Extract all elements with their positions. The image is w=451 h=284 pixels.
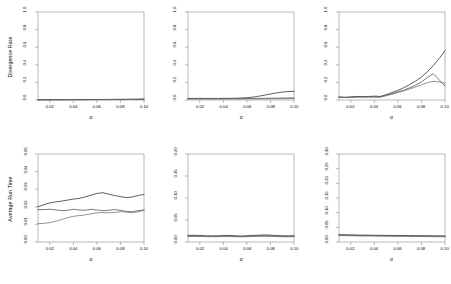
y-tick-label: 0.05	[166, 215, 184, 220]
y-tick-label: 0.6	[16, 42, 34, 47]
panel-top-right-svg	[301, 0, 451, 142]
x-tick-label: 0.08	[411, 104, 431, 109]
panel-top-middle: 0.020.040.060.080.100.00.20.40.60.81.0σ	[150, 0, 300, 142]
x-tick-label: 0.08	[261, 104, 281, 109]
x-tick-label: 0.10	[435, 104, 451, 109]
x-tick-label: 0.04	[214, 246, 234, 251]
y-tick-label: 0.0	[16, 95, 34, 100]
y-tick-label: 0.10	[166, 193, 184, 198]
y-tick-label: 0.2	[16, 77, 34, 82]
x-tick-label: 0.02	[190, 246, 210, 251]
panel-top-right-plot: 0.020.040.060.080.100.00.20.40.60.81.0σ	[301, 0, 451, 142]
y-tick-label: 0.00	[317, 237, 335, 242]
panel-bottom-left: Average Run Time 0.020.040.060.080.100.0…	[0, 142, 150, 284]
y-tick-label: 0.15	[166, 171, 184, 176]
panel-bottom-middle: 0.020.040.060.080.100.000.050.100.150.20…	[150, 142, 300, 284]
y-tick-label: 0.8	[317, 25, 335, 30]
y-tick-label: 0.15	[317, 193, 335, 198]
x-tick-label: 0.06	[87, 246, 107, 251]
x-tick-label: 0.02	[40, 246, 60, 251]
y-tick-label: 0.04	[16, 167, 34, 172]
x-tick-label: 0.08	[261, 246, 281, 251]
x-tick-label: 0.06	[87, 104, 107, 109]
plot-frame	[38, 154, 144, 242]
x-tick-label: 0.06	[237, 246, 257, 251]
panel-bottom-right-xlabel: σ	[377, 256, 407, 262]
y-tick-label: 0.05	[317, 222, 335, 227]
x-tick-label: 0.08	[110, 104, 130, 109]
series-line	[38, 193, 144, 207]
plot-frame	[339, 12, 445, 100]
y-tick-label: 0.0	[166, 95, 184, 100]
y-tick-label: 1.0	[317, 7, 335, 12]
panel-bottom-right-plot: 0.020.040.060.080.100.000.050.100.150.20…	[301, 142, 451, 284]
x-tick-label: 0.04	[364, 104, 384, 109]
panel-top-left-svg	[0, 0, 150, 142]
y-tick-label: 0.20	[317, 178, 335, 183]
panel-bottom-left-svg	[0, 142, 150, 284]
y-tick-label: 0.03	[16, 184, 34, 189]
y-tick-label: 0.0	[317, 95, 335, 100]
panel-bottom-middle-plot: 0.020.040.060.080.100.000.050.100.150.20…	[150, 142, 300, 284]
x-tick-label: 0.06	[237, 104, 257, 109]
panel-top-right: 0.020.040.060.080.100.00.20.40.60.81.0σ	[301, 0, 451, 142]
y-tick-label: 0.25	[317, 164, 335, 169]
x-tick-label: 0.10	[435, 246, 451, 251]
panel-top-right-xlabel: σ	[377, 114, 407, 120]
y-tick-label: 0.4	[317, 60, 335, 65]
series-line	[38, 210, 144, 223]
y-tick-label: 0.05	[16, 149, 34, 154]
plot-frame	[188, 154, 294, 242]
y-tick-label: 0.20	[166, 149, 184, 154]
plot-frame	[38, 12, 144, 100]
x-tick-label: 0.02	[340, 104, 360, 109]
panel-bottom-left-plot: 0.020.040.060.080.100.000.010.020.030.04…	[0, 142, 150, 284]
x-tick-label: 0.04	[63, 246, 83, 251]
x-tick-label: 0.06	[388, 246, 408, 251]
panel-top-middle-xlabel: σ	[226, 114, 256, 120]
x-tick-label: 0.04	[364, 246, 384, 251]
series-line	[188, 91, 294, 98]
y-tick-label: 0.00	[166, 237, 184, 242]
figure-grid: Divergence Rate 0.020.040.060.080.100.00…	[0, 0, 451, 284]
y-tick-label: 0.10	[317, 208, 335, 213]
y-tick-label: 0.4	[16, 60, 34, 65]
y-tick-label: 1.0	[166, 7, 184, 12]
x-tick-label: 0.06	[388, 104, 408, 109]
x-tick-label: 0.08	[110, 246, 130, 251]
y-tick-label: 0.30	[317, 149, 335, 154]
x-tick-label: 0.02	[190, 104, 210, 109]
y-tick-label: 0.01	[16, 219, 34, 224]
y-tick-label: 1.0	[16, 7, 34, 12]
panel-top-middle-plot: 0.020.040.060.080.100.00.20.40.60.81.0σ	[150, 0, 300, 142]
y-tick-label: 0.2	[317, 77, 335, 82]
x-tick-label: 0.04	[63, 104, 83, 109]
panel-bottom-middle-xlabel: σ	[226, 256, 256, 262]
y-tick-label: 0.8	[16, 25, 34, 30]
y-tick-label: 0.02	[16, 202, 34, 207]
x-tick-label: 0.08	[411, 246, 431, 251]
y-tick-label: 0.00	[16, 237, 34, 242]
series-line	[38, 209, 144, 211]
y-tick-label: 0.6	[166, 42, 184, 47]
panel-top-left-xlabel: σ	[76, 114, 106, 120]
panel-top-middle-svg	[150, 0, 300, 142]
series-line	[339, 74, 445, 98]
panel-top-left-plot: 0.020.040.060.080.100.00.20.40.60.81.0σ	[0, 0, 150, 142]
plot-frame	[188, 12, 294, 100]
x-tick-label: 0.04	[214, 104, 234, 109]
y-tick-label: 0.6	[317, 42, 335, 47]
panel-bottom-right: 0.020.040.060.080.100.000.050.100.150.20…	[301, 142, 451, 284]
panel-bottom-left-xlabel: σ	[76, 256, 106, 262]
y-tick-label: 0.8	[166, 25, 184, 30]
x-tick-label: 0.02	[340, 246, 360, 251]
series-line	[339, 81, 445, 97]
plot-frame	[339, 154, 445, 242]
y-tick-label: 0.4	[166, 60, 184, 65]
series-line	[339, 51, 445, 98]
panel-top-left: Divergence Rate 0.020.040.060.080.100.00…	[0, 0, 150, 142]
x-tick-label: 0.02	[40, 104, 60, 109]
y-tick-label: 0.2	[166, 77, 184, 82]
